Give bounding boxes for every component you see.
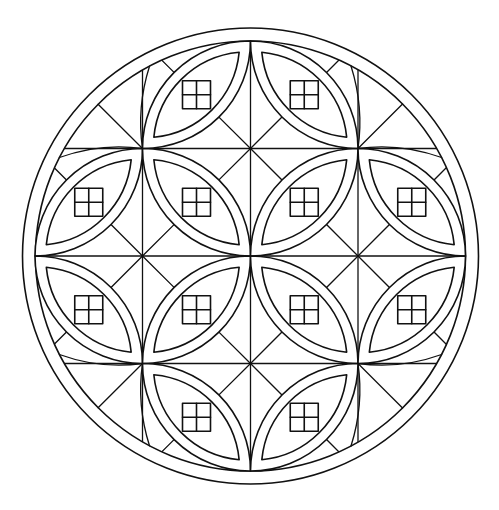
diagonal-line — [358, 225, 389, 256]
diagonal-line — [251, 332, 282, 363]
diagonal-line — [358, 256, 389, 287]
diagonal-line — [251, 364, 282, 395]
diagonal-line — [327, 256, 358, 287]
diagonal-line — [251, 149, 282, 180]
diagonal-line — [327, 225, 358, 256]
mandala-drawing — [0, 0, 499, 510]
diagonal-line — [111, 256, 142, 287]
corner-diagonal-spoke — [98, 364, 142, 408]
diagonal-line — [219, 149, 251, 180]
diagonal-line — [143, 256, 175, 287]
corner-diagonal-spoke — [98, 104, 142, 148]
diagonal-line — [111, 225, 142, 256]
diagonal-line — [143, 225, 175, 256]
diagonal-line — [219, 364, 251, 395]
diagonal-line — [251, 117, 282, 148]
diagonal-line — [219, 332, 251, 363]
corner-diagonal-spoke — [358, 364, 403, 409]
corner-diagonal-spoke — [358, 104, 403, 149]
diagonal-line — [219, 117, 251, 148]
